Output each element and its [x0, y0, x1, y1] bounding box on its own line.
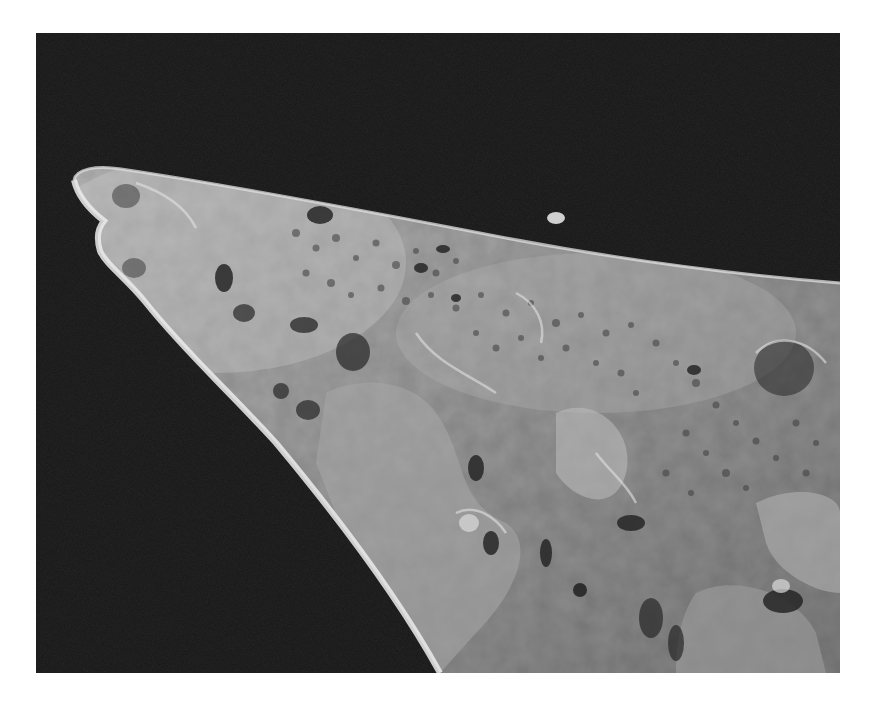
micrograph-frame [36, 33, 840, 673]
sem-micrograph [36, 33, 840, 673]
